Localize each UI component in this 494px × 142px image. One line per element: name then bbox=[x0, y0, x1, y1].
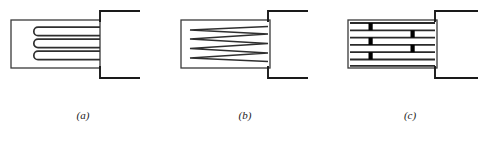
panel-c-tab bbox=[411, 45, 415, 52]
panel-c-lead-bottom bbox=[435, 66, 478, 78]
panel-b-lead-top bbox=[268, 11, 308, 22]
panel-c-foil-bars bbox=[350, 23, 435, 66]
panel-c-tab bbox=[411, 30, 415, 37]
panel-c bbox=[348, 11, 478, 78]
panel-b-lead-bottom bbox=[268, 66, 308, 78]
panel-a bbox=[11, 11, 140, 78]
panel-b-caption: (b) bbox=[225, 110, 265, 121]
panel-c-caption: (c) bbox=[390, 110, 430, 121]
panel-c-tab bbox=[369, 52, 373, 59]
panel-b bbox=[181, 11, 308, 78]
panel-c-tab bbox=[369, 38, 373, 45]
figure-container: (a) (b) (c) bbox=[0, 0, 494, 142]
panel-a-lead-top bbox=[100, 11, 140, 22]
panel-a-serpentine-trace bbox=[34, 27, 100, 59]
panel-b-zigzag-trace bbox=[190, 27, 268, 62]
panel-a-caption: (a) bbox=[63, 110, 103, 121]
panel-c-tabs-right bbox=[411, 30, 415, 52]
panel-c-tab bbox=[369, 23, 373, 30]
panel-c-lead-top bbox=[435, 11, 478, 22]
panel-a-lead-bottom bbox=[100, 66, 140, 78]
panel-c-tabs-left bbox=[369, 23, 373, 60]
